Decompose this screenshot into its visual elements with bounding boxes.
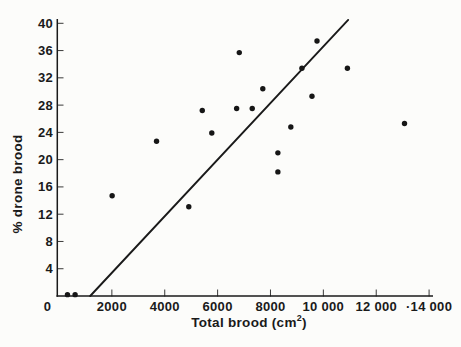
y-tick-label-20: 20 [38,152,53,167]
y-tick-label-12: 12 [38,207,53,222]
data-point [314,38,319,43]
x-tick-label-8000: 8000 [255,299,285,314]
data-point [402,121,407,126]
data-point [109,193,114,198]
data-point [154,139,159,144]
scatter-chart: 0200040006000800010 00012 000·14 000 481… [0,0,461,347]
x-tick-label-10000: 10 000 [303,299,345,314]
x-tick-label-6000: 6000 [203,299,233,314]
x-axis-title-base: Total brood (cm [191,315,297,330]
data-point [275,150,280,155]
x-tick-label-4000: 4000 [150,299,180,314]
data-point [72,292,77,297]
data-point [65,292,70,297]
x-tick-label-14000: ·14 000 [406,299,452,314]
data-point [234,106,239,111]
data-point [250,106,255,111]
y-tick-label-8: 8 [45,234,53,249]
regression-line [90,20,348,296]
y-tick-label-group: 481216202428323640 [38,16,54,276]
y-tick-label-24: 24 [38,125,54,140]
data-point [309,94,314,99]
axes-group [57,19,434,297]
data-point [209,130,214,135]
y-tick-label-4: 4 [45,261,53,276]
x-tick-label-12000: 12 000 [355,299,397,314]
data-point [200,108,205,113]
data-point [275,169,280,174]
data-point [299,66,304,71]
x-tick-label-group: 0200040006000800010 00012 000·14 000 [44,299,452,314]
y-tick-label-40: 40 [38,16,53,31]
x-tick-label-0: 0 [44,299,52,314]
data-point [260,86,265,91]
y-tick-label-32: 32 [38,70,53,85]
y-tick-label-36: 36 [38,43,53,58]
y-tick-label-16: 16 [38,179,53,194]
regression-line-group [90,20,348,296]
data-point [345,66,350,71]
data-points-group [65,38,407,297]
data-point [288,124,293,129]
y-tick-label-28: 28 [38,98,53,113]
scatter-plot-figure: 0200040006000800010 00012 000·14 000 481… [0,0,461,347]
y-axis-title: % drone brood [10,134,25,233]
data-point [237,50,242,55]
x-tick-label-2000: 2000 [97,299,127,314]
x-axis-title-close: ) [302,315,307,330]
data-point [186,204,191,209]
x-axis-title: Total brood (cm2) [191,315,307,330]
